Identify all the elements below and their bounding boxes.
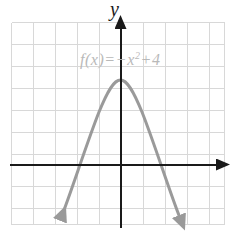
equation-minus-sign: −: [116, 51, 128, 68]
equation-plus-sign: +: [140, 51, 152, 68]
coordinate-plane: [0, 0, 235, 233]
graph-figure: y f(x)=−x2+4: [0, 0, 235, 233]
equation-function-name: f(x): [80, 51, 104, 68]
equation-variable: x: [127, 51, 135, 68]
equation-equals-sign: =: [104, 51, 116, 68]
function-equation-annotation: f(x)=−x2+4: [80, 51, 160, 69]
equation-constant: 4: [152, 51, 161, 68]
y-axis-label: y: [110, 0, 119, 19]
